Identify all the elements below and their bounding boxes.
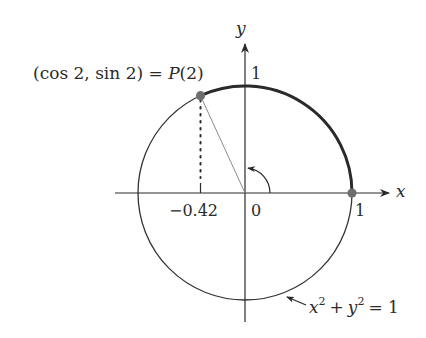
point-label: (cos 2, sin 2) = P(2): [33, 63, 204, 83]
angle-arc-icon: [248, 168, 270, 193]
point-p2: [196, 91, 205, 100]
radius-line: [201, 96, 246, 193]
y-one-label: 1: [251, 64, 261, 83]
point-one-zero: [347, 188, 356, 197]
cos-value-label: −0.42: [169, 201, 218, 220]
arc-length-2: [201, 86, 353, 193]
y-axis-label: y: [235, 18, 246, 38]
equation-pointer-arrow: [287, 297, 306, 305]
circle-equation: x2+y2= 1: [309, 295, 399, 317]
origin-label: 0: [251, 201, 261, 220]
unit-circle-diagram: (cos 2, sin 2) = P(2) y x 1 1 0 −0.42 x2…: [0, 0, 426, 338]
x-axis-label: x: [396, 181, 406, 201]
x-one-label: 1: [355, 201, 365, 220]
